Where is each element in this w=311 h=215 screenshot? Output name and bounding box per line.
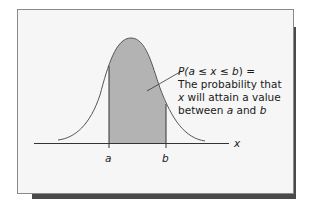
shaded-probability-area [109,38,166,143]
tick-label-a: a [105,152,111,165]
tick-label-b: b [162,152,169,165]
x-axis-label: x [234,137,240,150]
annotation-line-4: between a and b [178,104,266,117]
annotation-line-2: The probability that [178,78,282,91]
annotation-formula: P(a ≤ x ≤ b) = [178,65,255,78]
annotation-line-3: x will attain a value [178,91,281,104]
